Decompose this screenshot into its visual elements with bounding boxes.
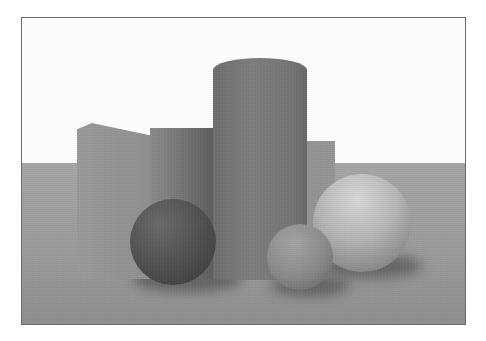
render-frame <box>21 17 466 325</box>
small-sphere <box>267 224 333 290</box>
dark-sphere <box>130 199 216 285</box>
